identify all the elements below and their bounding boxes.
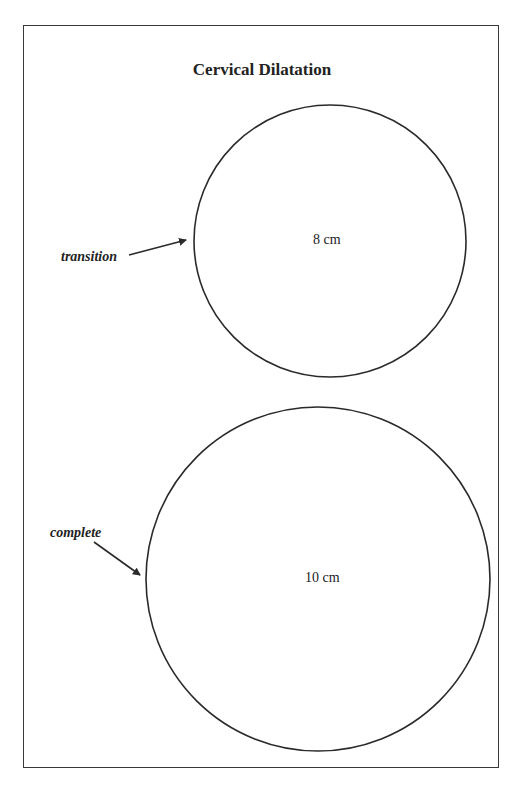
annotation-complete: complete — [50, 525, 101, 541]
transition-arrow — [129, 240, 186, 255]
diagram-canvas — [0, 0, 524, 791]
complete-arrow — [94, 542, 140, 575]
label-10cm: 10 cm — [305, 570, 340, 586]
label-8cm: 8 cm — [313, 232, 341, 248]
annotation-transition: transition — [61, 249, 117, 265]
